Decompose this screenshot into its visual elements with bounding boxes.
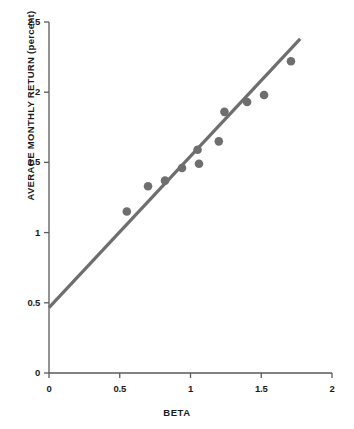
y-tick-label: 0.5 bbox=[0, 298, 40, 308]
fit-line bbox=[49, 39, 300, 308]
data-point bbox=[193, 145, 202, 154]
y-axis-title: AVERAGE MONTHLY RETURN (percent) bbox=[25, 0, 36, 231]
y-tick-label: 0 bbox=[0, 368, 40, 378]
data-point bbox=[195, 160, 204, 169]
x-axis-ticks bbox=[49, 373, 332, 378]
scatter-plot-canvas bbox=[0, 0, 354, 429]
data-point bbox=[144, 182, 153, 191]
data-point bbox=[260, 91, 269, 100]
x-axis-title: BETA bbox=[0, 407, 354, 418]
data-point bbox=[123, 207, 132, 216]
y-axis-ticks bbox=[44, 22, 49, 373]
data-point bbox=[287, 57, 296, 66]
data-point bbox=[215, 137, 224, 146]
x-tick-label: 0 bbox=[46, 384, 51, 394]
data-point bbox=[161, 176, 170, 185]
data-point bbox=[220, 108, 229, 117]
axes bbox=[49, 22, 332, 373]
x-tick-label: 2 bbox=[329, 384, 334, 394]
regression-line bbox=[49, 39, 300, 308]
x-tick-label: 0.5 bbox=[113, 384, 126, 394]
data-point bbox=[178, 164, 187, 173]
x-tick-label: 1.5 bbox=[255, 384, 268, 394]
chart-container: 00.511.522.5 00.511.52 BETA AVERAGE MONT… bbox=[0, 0, 354, 429]
data-point bbox=[243, 98, 252, 107]
x-tick-label: 1 bbox=[188, 384, 193, 394]
